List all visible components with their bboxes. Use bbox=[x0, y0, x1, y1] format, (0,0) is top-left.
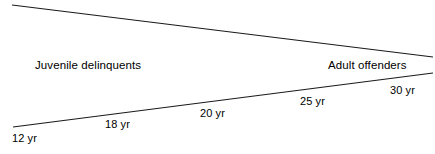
upper-boundary-line bbox=[12, 5, 433, 57]
group-label-juvenile-delinquents: Juvenile delinquents bbox=[35, 60, 141, 72]
age-marker-20yr: 20 yr bbox=[200, 108, 225, 119]
age-marker-12yr: 12 yr bbox=[12, 133, 37, 144]
wedge-diagram-figure: Juvenile delinquents Adult offenders 12 … bbox=[0, 0, 435, 154]
wedge-lines-graphic bbox=[0, 0, 435, 154]
age-marker-30yr: 30 yr bbox=[390, 85, 415, 96]
age-marker-18yr: 18 yr bbox=[105, 119, 130, 130]
group-label-adult-offenders: Adult offenders bbox=[328, 60, 407, 72]
age-marker-25yr: 25 yr bbox=[300, 96, 325, 107]
